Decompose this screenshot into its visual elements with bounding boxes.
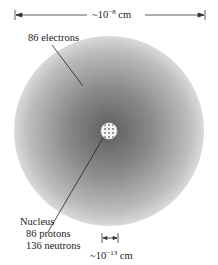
nucleus-neutrons: 136 neutrons bbox=[26, 240, 81, 252]
electron-label: 86 electrons bbox=[28, 32, 79, 44]
nucleus-protons: 86 protons bbox=[26, 228, 71, 240]
nucleus-scale-exponent: −13 bbox=[106, 249, 117, 257]
nucleus-scale-label: ~10−13 cm bbox=[90, 250, 133, 262]
top-scale-prefix: ~10 bbox=[92, 9, 108, 20]
nucleus-title: Nucleus bbox=[20, 216, 54, 228]
nucleus-dimension-arrow bbox=[102, 233, 118, 243]
top-scale-exponent: −8 bbox=[108, 8, 115, 16]
top-scale-unit: cm bbox=[118, 9, 131, 20]
nucleus-scale-prefix: ~10 bbox=[90, 250, 106, 261]
nucleus-icon bbox=[101, 123, 117, 139]
top-scale-label: ~10−8 cm bbox=[90, 9, 133, 21]
nucleus-scale-unit: cm bbox=[120, 250, 133, 261]
